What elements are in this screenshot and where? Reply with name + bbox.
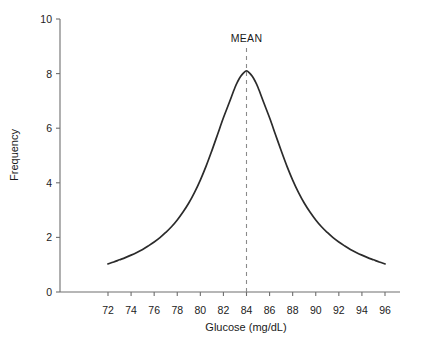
x-tick-label: 86 xyxy=(264,305,276,316)
x-axis-title: Glucose (mg/dL) xyxy=(205,321,286,333)
x-tick-label: 88 xyxy=(287,305,299,316)
y-tick-label: 10 xyxy=(36,14,52,25)
y-axis-ticks xyxy=(56,19,60,292)
x-tick-label: 78 xyxy=(171,305,183,316)
y-tick-label: 2 xyxy=(36,232,52,243)
glucose-distribution-chart: 0246810 72747678808284868890929496 Frequ… xyxy=(0,0,431,344)
x-tick-label: 96 xyxy=(379,305,391,316)
x-tick-label: 72 xyxy=(102,305,114,316)
y-axis-title: Frequency xyxy=(8,129,20,181)
x-tick-label: 90 xyxy=(310,305,322,316)
x-axis-ticks xyxy=(108,292,385,296)
x-tick-label: 74 xyxy=(125,305,137,316)
y-tick-label: 8 xyxy=(36,68,52,79)
y-tick-label: 4 xyxy=(36,178,52,189)
axis-group xyxy=(56,19,400,296)
x-tick-label: 80 xyxy=(194,305,206,316)
y-tick-label: 0 xyxy=(36,287,52,298)
x-tick-label: 82 xyxy=(218,305,230,316)
x-tick-label: 94 xyxy=(356,305,368,316)
y-tick-label: 6 xyxy=(36,123,52,134)
x-tick-label: 92 xyxy=(333,305,345,316)
plot-area xyxy=(0,0,431,344)
x-tick-label: 84 xyxy=(241,305,253,316)
mean-annotation-label: MEAN xyxy=(231,32,263,44)
x-tick-label: 76 xyxy=(148,305,160,316)
